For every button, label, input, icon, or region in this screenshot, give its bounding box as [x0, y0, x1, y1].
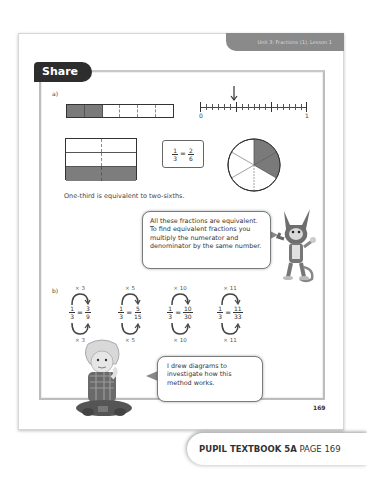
- multiplier-bottom: × 11: [213, 337, 247, 343]
- tick: [259, 104, 260, 110]
- curved-arrow-bottom-icon: [219, 323, 241, 335]
- numerator: 1: [118, 305, 124, 313]
- multiplier-top: × 11: [213, 285, 247, 291]
- speech-bubble-boy: I drew diagrams to investigate how this …: [157, 356, 263, 402]
- fraction: 13: [69, 305, 75, 320]
- multiplier-top: × 5: [113, 285, 147, 291]
- speech-bubble-cat: All these fractions are equivalent. To f…: [142, 211, 271, 269]
- fraction: 13: [118, 305, 124, 320]
- numerator: 11: [233, 305, 243, 313]
- bar-cell: [156, 105, 173, 117]
- numerator: 1: [217, 305, 223, 313]
- tick: [224, 104, 225, 110]
- equation-group: × 3 13 = 39 × 3: [63, 285, 97, 343]
- fraction: 515: [134, 305, 142, 320]
- tick: [236, 102, 237, 112]
- equals-sign: =: [77, 309, 83, 317]
- tick: [283, 104, 284, 110]
- number-line: 0 1: [200, 100, 307, 120]
- multiplier-top: × 3: [63, 285, 97, 291]
- fraction: 13: [217, 305, 223, 320]
- tick: [265, 104, 266, 110]
- equation-group: × 10 13 = 1030 × 10: [163, 285, 197, 343]
- equals-sign: =: [180, 150, 186, 158]
- equation-group: × 11 13 = 1133 × 11: [213, 285, 247, 343]
- equation: 13 = 1133: [213, 305, 247, 320]
- bar-cell: [138, 105, 156, 117]
- denominator: 3: [168, 313, 172, 320]
- tick: [254, 104, 255, 110]
- pie-model: [226, 137, 282, 193]
- equation: 13 = 39: [63, 305, 97, 320]
- numerator: 5: [135, 305, 141, 313]
- divider: [101, 167, 102, 181]
- curved-arrow-top-icon: [169, 293, 191, 305]
- numerator: 10: [183, 305, 193, 313]
- equation: 13 = 1030: [163, 305, 197, 320]
- equivalence-sentence: One-third is equivalent to two-sixths.: [64, 192, 185, 200]
- denominator: 3: [70, 313, 74, 320]
- curved-arrow-top-icon: [69, 293, 91, 305]
- boy-character-illustration: [72, 338, 136, 420]
- numerator: 1: [69, 305, 75, 313]
- part-a-label: a): [52, 90, 58, 97]
- divider: [101, 153, 102, 166]
- rect-row: [66, 139, 136, 153]
- tick: [212, 104, 213, 110]
- number-line-start-label: 0: [199, 112, 203, 119]
- multiplier-bottom: × 10: [163, 337, 197, 343]
- rectangle-model: [65, 138, 137, 180]
- number-line-end-label: 1: [305, 112, 309, 119]
- part-b-label: b): [52, 287, 58, 294]
- footer-banner: PUPIL TEXTBOOK 5A PAGE 169: [187, 433, 367, 465]
- bar-cell-shaded: [67, 105, 85, 117]
- denominator: 33: [234, 313, 242, 320]
- divider: [101, 139, 102, 152]
- cat-character-illustration: [276, 207, 316, 283]
- tick: [301, 104, 302, 110]
- bar-cell: [120, 105, 138, 117]
- book-page: PAGE 169: [300, 444, 341, 454]
- denominator: 6: [189, 155, 193, 162]
- tick: [218, 104, 219, 110]
- bar-cell-shaded: [85, 105, 103, 117]
- denominator: 9: [86, 313, 90, 320]
- denominator: 30: [184, 313, 192, 320]
- numerator: 3: [85, 305, 91, 313]
- curved-arrow-top-icon: [219, 293, 241, 305]
- fraction: 13: [167, 305, 173, 320]
- fraction-one-third: 1 3: [172, 147, 178, 162]
- tick: [230, 104, 231, 110]
- numerator: 2: [188, 147, 194, 155]
- equals-sign: =: [175, 309, 181, 317]
- tick: [277, 104, 278, 110]
- tick: [248, 104, 249, 110]
- denominator: 3: [173, 155, 177, 162]
- curved-arrow-bottom-icon: [69, 323, 91, 335]
- denominator: 3: [218, 313, 222, 320]
- equation-group: × 5 13 = 515 × 5: [113, 285, 147, 343]
- equals-sign: =: [126, 309, 132, 317]
- multiplier-top: × 10: [163, 285, 197, 291]
- bar-cell: [103, 105, 121, 117]
- denominator: 3: [119, 313, 123, 320]
- numerator: 1: [172, 147, 178, 155]
- numerator: 1: [167, 305, 173, 313]
- unit-lesson-tab: Unit 3: Fractions (1), Lesson 1: [226, 33, 344, 51]
- tick: [200, 102, 201, 112]
- tick: [206, 104, 207, 110]
- book-title: PUPIL TEXTBOOK 5A: [199, 444, 297, 454]
- fraction: 1030: [183, 305, 193, 320]
- fraction: 1133: [233, 305, 243, 320]
- tick: [295, 104, 296, 110]
- curved-arrow-bottom-icon: [119, 323, 141, 335]
- rect-row-shaded: [66, 167, 136, 181]
- fraction-two-sixths: 2 6: [188, 147, 194, 162]
- section-title: Share: [34, 62, 92, 82]
- curved-arrow-bottom-icon: [169, 323, 191, 335]
- fraction-equation-box: 1 3 = 2 6: [162, 140, 204, 168]
- curved-arrow-top-icon: [119, 293, 141, 305]
- tick: [242, 104, 243, 110]
- rect-row: [66, 153, 136, 167]
- page-number: 169: [313, 404, 326, 411]
